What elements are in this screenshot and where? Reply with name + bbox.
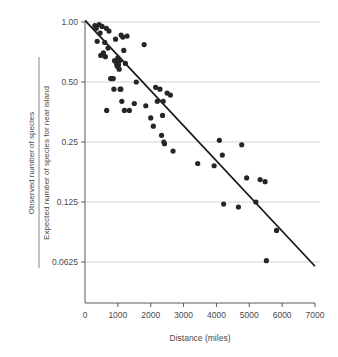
data-point xyxy=(244,175,249,180)
data-point xyxy=(236,204,241,209)
data-point xyxy=(132,101,137,106)
data-point xyxy=(262,179,267,184)
data-point xyxy=(104,108,109,113)
data-point xyxy=(159,133,164,138)
data-point xyxy=(258,177,263,182)
data-point xyxy=(157,87,162,92)
data-point xyxy=(105,45,110,50)
data-point xyxy=(106,29,111,34)
x-tick-label: 2000 xyxy=(141,310,160,320)
x-axis-title-text: Distance (miles) xyxy=(170,333,231,343)
data-point xyxy=(123,61,128,66)
y-tick-label: 0.25 xyxy=(61,137,78,147)
data-point xyxy=(119,99,124,104)
data-point xyxy=(127,108,132,113)
data-point xyxy=(111,76,116,81)
x-tick-label: 0 xyxy=(83,310,88,320)
data-point xyxy=(168,92,173,97)
data-point xyxy=(117,67,122,72)
data-point xyxy=(170,149,175,154)
data-point xyxy=(148,115,153,120)
data-point xyxy=(162,141,167,146)
data-point xyxy=(221,202,226,207)
data-point xyxy=(220,152,225,157)
data-point xyxy=(160,113,165,118)
figure-container: 1.000.500.250.1250.0625 0100020003000400… xyxy=(0,0,338,357)
data-point xyxy=(253,199,258,204)
data-point xyxy=(117,58,122,63)
data-point xyxy=(264,258,269,263)
data-point xyxy=(121,48,126,53)
data-point xyxy=(239,142,244,147)
data-point xyxy=(118,87,123,92)
y-tick-label: 0.0625 xyxy=(52,257,78,267)
data-point xyxy=(217,138,222,143)
data-point xyxy=(102,40,107,45)
y-tick-label: 1.00 xyxy=(61,17,78,27)
data-point xyxy=(143,103,148,108)
data-point xyxy=(95,39,100,44)
y-tick-label: 0.125 xyxy=(57,197,79,207)
data-point xyxy=(155,99,160,104)
y-tick-label: 0.50 xyxy=(61,77,78,87)
x-tick-label: 1000 xyxy=(108,310,127,320)
data-point xyxy=(113,37,118,42)
data-point xyxy=(103,54,108,59)
data-point xyxy=(212,163,217,168)
data-point xyxy=(195,161,200,166)
data-point xyxy=(134,79,139,84)
y-axis-ticks: 1.000.500.250.1250.0625 xyxy=(52,17,85,267)
y-axis-denominator-text: Expected number of species for near isla… xyxy=(42,86,51,240)
data-point xyxy=(161,99,166,104)
data-point xyxy=(124,33,129,38)
x-axis-ticks: 01000200030004000500060007000 xyxy=(83,303,325,320)
x-tick-label: 7000 xyxy=(306,310,325,320)
data-point xyxy=(151,124,156,129)
x-tick-label: 4000 xyxy=(207,310,226,320)
scatter-plot: 1.000.500.250.1250.0625 0100020003000400… xyxy=(0,0,338,357)
data-point xyxy=(274,228,279,233)
x-tick-label: 5000 xyxy=(240,310,259,320)
x-tick-label: 3000 xyxy=(174,310,193,320)
x-axis-label: Distance (miles) xyxy=(170,333,231,343)
data-points xyxy=(92,22,279,263)
y-axis-label: Observed number of species Expected numb… xyxy=(27,57,51,268)
data-point xyxy=(98,30,103,35)
x-tick-label: 6000 xyxy=(273,310,292,320)
data-point xyxy=(122,108,127,113)
data-point xyxy=(142,42,147,47)
data-point xyxy=(111,87,116,92)
y-axis-numerator-text: Observed number of species xyxy=(27,112,36,214)
